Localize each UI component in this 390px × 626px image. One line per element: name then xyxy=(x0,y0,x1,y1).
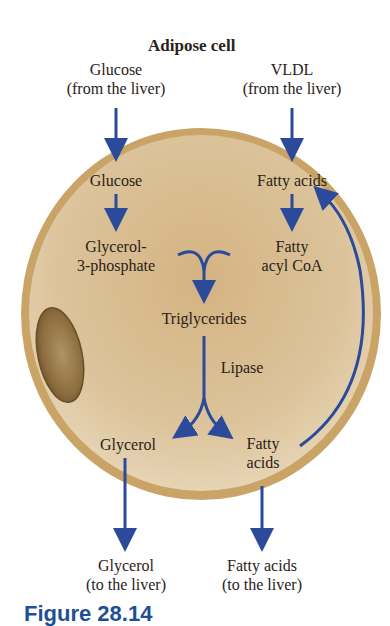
glucose-input-name: Glucose xyxy=(50,60,182,79)
glycerol-label: Glycerol xyxy=(88,435,168,454)
vldl-input-source: (from the liver) xyxy=(226,79,358,98)
vldl-input-name: VLDL xyxy=(226,60,358,79)
triglycerides-label: Triglycerides xyxy=(144,309,264,328)
input-vldl-label: VLDL (from the liver) xyxy=(226,60,358,98)
glycerol-3-phosphate-label: Glycerol- 3-phosphate xyxy=(56,237,176,275)
lipase-label: Lipase xyxy=(212,358,272,377)
glycerol-output-name: Glycerol xyxy=(60,556,192,575)
fatty-acyl-coa-label: Fatty acyl CoA xyxy=(246,237,338,275)
glycerol-output-dest: (to the liver) xyxy=(60,575,192,594)
fatty-acids-label: Fatty acids xyxy=(240,171,344,190)
glucose-label: Glucose xyxy=(76,171,156,190)
acyl-line1: Fatty xyxy=(246,237,338,256)
fa2-line2: acids xyxy=(236,453,290,472)
figure-caption: Figure 28.14 xyxy=(24,603,152,625)
g3p-line2: 3-phosphate xyxy=(56,256,176,275)
g3p-line1: Glycerol- xyxy=(56,237,176,256)
fatty-acids-product-label: Fatty acids xyxy=(236,434,290,472)
fa-output-dest: (to the liver) xyxy=(196,575,328,594)
output-fatty-acids-label: Fatty acids (to the liver) xyxy=(196,556,328,594)
acyl-line2: acyl CoA xyxy=(246,256,338,275)
output-glycerol-label: Glycerol (to the liver) xyxy=(60,556,192,594)
glucose-input-source: (from the liver) xyxy=(50,79,182,98)
diagram-title: Adipose cell xyxy=(148,36,235,55)
input-glucose-label: Glucose (from the liver) xyxy=(50,60,182,98)
fa-output-name: Fatty acids xyxy=(196,556,328,575)
fa2-line1: Fatty xyxy=(236,434,290,453)
